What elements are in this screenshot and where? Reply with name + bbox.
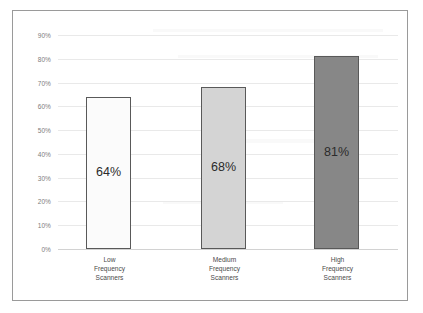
bar-value-label: 68% (202, 160, 245, 174)
ytick-label-80: 80% (38, 55, 51, 62)
ytick-label-0: 0% (41, 246, 51, 253)
ytick-label-30: 30% (38, 174, 51, 181)
bar-value-label: 81% (315, 145, 358, 159)
gridline-90: 90% (58, 35, 398, 36)
bar-value-label: 64% (87, 165, 130, 179)
xtick-label-medium-frequency-scanners: Medium Frequency Scanners (178, 255, 271, 283)
chart-frame: 90% 80% 70% 60% 50% 40% 30% 20% 10% 0% (12, 10, 408, 301)
xtick-label-high-frequency-scanners: High Frequency Scanners (291, 255, 384, 283)
gridline-0-baseline: 0% (58, 249, 398, 250)
ytick-label-70: 70% (38, 79, 51, 86)
scan-artifact (153, 29, 383, 32)
bar-low-frequency-scanners[interactable]: 64% Low Frequency Scanners (86, 97, 131, 249)
ytick-label-40: 40% (38, 150, 51, 157)
ytick-label-90: 90% (38, 32, 51, 39)
ytick-label-50: 50% (38, 127, 51, 134)
ytick-label-10: 10% (38, 222, 51, 229)
bar-high-frequency-scanners[interactable]: 81% High Frequency Scanners (314, 56, 359, 249)
xtick-label-low-frequency-scanners: Low Frequency Scanners (63, 255, 156, 283)
bar-medium-frequency-scanners[interactable]: 68% Medium Frequency Scanners (201, 87, 246, 249)
plot-area: 90% 80% 70% 60% 50% 40% 30% 20% 10% 0% (58, 35, 398, 249)
ytick-label-60: 60% (38, 103, 51, 110)
ytick-label-20: 20% (38, 198, 51, 205)
